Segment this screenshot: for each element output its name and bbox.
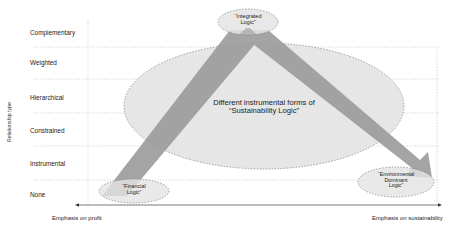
financial-logic-label: “Financial Logic” [109,184,159,195]
x-axis-right-label: Emphasis on sustainability [372,215,443,221]
environmental-logic-label: “Environmental Dominant Logic” [361,172,431,189]
y-level-weighted: Weighted [30,59,57,66]
y-level-instrumental: Instrumental [30,160,65,167]
y-level-complementary: Complementary [30,29,75,36]
y-level-constrained: Constrained [30,127,64,134]
y-level-hierarchical: Hierarchical [30,94,64,101]
y-level-none: None [30,191,45,198]
integrated-logic-label: “Integrated Logic” [218,14,278,26]
center-logic-label: Different instrumental forms of “Sustain… [184,99,344,115]
x-axis-arrow [75,203,442,206]
x-axis-left-label: Emphasis on profit [52,215,102,221]
sustainability-logic-diagram: Relationship type Complementary Weighted… [0,0,462,229]
y-axis-title: Relationship type [6,102,12,142]
